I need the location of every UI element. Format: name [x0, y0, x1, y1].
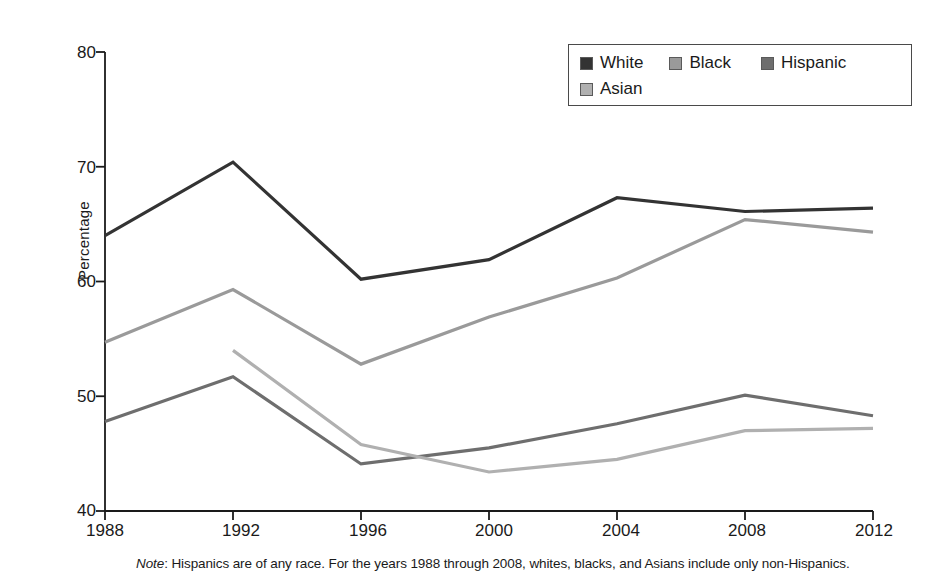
series-line-black [105, 220, 873, 365]
legend-swatch-black [669, 57, 682, 70]
x-tick-label-1992: 1992 [206, 521, 276, 541]
figure-note-label: Note [136, 556, 164, 571]
legend-label-white: White [600, 53, 643, 73]
x-tick-label-1996: 1996 [333, 521, 403, 541]
legend-entry-black: Black [669, 53, 731, 73]
legend-swatch-white [580, 57, 593, 70]
y-tick-label-50: 50 [52, 387, 96, 407]
x-tick-label-2004: 2004 [586, 521, 656, 541]
y-tick-label-40: 40 [52, 501, 96, 521]
x-tick-label-2012: 2012 [839, 521, 909, 541]
legend-label-black: Black [689, 53, 731, 73]
series-line-asian [233, 350, 873, 472]
y-tick-label-80: 80 [52, 43, 96, 63]
figure-note-text: : Hispanics are of any race. For the yea… [164, 556, 850, 571]
legend-swatch-asian [580, 83, 593, 96]
x-tick-label-2008: 2008 [712, 521, 782, 541]
series-line-hispanic [105, 377, 873, 464]
legend-entry-hispanic: Hispanic [761, 53, 846, 73]
x-tick-label-2000: 2000 [459, 521, 529, 541]
legend-label-asian: Asian [600, 79, 643, 99]
y-tick-label-60: 60 [52, 272, 96, 292]
legend-swatch-hispanic [761, 57, 774, 70]
legend-label-hispanic: Hispanic [781, 53, 846, 73]
figure-note: Note: Hispanics are of any race. For the… [136, 556, 850, 571]
chart-legend: White Black Hispanic Asian [568, 44, 912, 106]
chart-figure: Percentage 80 70 60 50 40 1988 1992 1996… [0, 0, 931, 584]
x-tick-label-1988: 1988 [70, 521, 140, 541]
legend-entry-white: White [580, 53, 643, 73]
y-tick-label-70: 70 [52, 158, 96, 178]
legend-entry-asian: Asian [580, 79, 643, 99]
